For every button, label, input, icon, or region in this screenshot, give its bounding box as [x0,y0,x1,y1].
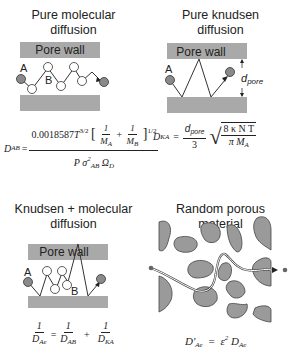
dpore-fraction: dpore 3 [183,123,207,151]
sqrt-symbol: √ [209,126,221,148]
frac-den-sub: AB [68,338,77,346]
particle-b [51,285,60,294]
particle-b [70,63,79,72]
pressure: P [74,157,80,168]
sqrt-num: 8 κ N T [221,123,256,136]
frac-den-sub: B [134,140,138,148]
eq-subscript: AB [11,144,20,152]
eq-symbol: D' [185,335,195,347]
frac-den: M [127,136,135,146]
particle-b [58,267,67,276]
particle-b [28,85,37,94]
molecular-diffusion-diagram: Pore wall A B [0,0,147,120]
sqrt-den: π M [229,136,245,147]
eq-subscript: Ae [195,341,202,349]
plus: + [116,129,122,140]
rhs-subscript: Ae [239,341,246,349]
sqrt-den-sub: A [245,141,249,149]
omega-sub: D [109,162,114,170]
frac-num: 1 [102,122,111,135]
combined-diffusion-diagram: Pore wall A B [0,178,147,308]
particle-b [78,77,87,86]
panel-pure-molecular: Pure molecular diffusion Pore wall A B D… [0,0,147,170]
pore-wall-label: Pore wall [39,245,88,259]
frac-num: 1 [128,122,137,135]
porous-diffusion-equation: D'Ae = ε2 DAe [185,334,246,349]
frac-den-sub: A [108,140,112,148]
panel-knudsen-molecular: Knudsen + molecular diffusion Pore wall … [0,178,147,356]
frac-den: D [60,333,67,344]
knudsen-diffusion-diagram: Pore wall A dpore [147,0,294,120]
particle-b [43,267,52,276]
panel-random-porous: Random porous material D'Ae = ε2 DAe [147,178,294,356]
frac-num-sub: pore [190,128,204,135]
dim-arrow-down-icon [240,93,244,97]
denominator: P σ2AB ΩD [72,151,116,174]
exponent: 3/2 [80,127,89,135]
arrowhead-icon [222,76,228,82]
frac-den-sub: KA [105,338,114,346]
sigma-sub: AB [91,162,100,170]
porous-material-diagram [147,178,294,338]
eq-subscript: KA [160,133,169,141]
particle-end [283,268,288,273]
combined-diffusion-equation: 1DAe = 1DAB + 1DKA [30,320,116,348]
knudsen-diffusion-equation: DKA = dpore 3 √ 8 κ N T π MA [153,122,256,151]
rhs-symbol: D [231,335,239,347]
particle-a [166,76,175,85]
label-b: B [71,285,78,297]
eq-equals: = [51,329,57,340]
label-a: A [24,266,32,278]
label-a: A [20,62,28,74]
knudsen-path [170,59,225,97]
term-1: 1DAe [30,320,49,348]
pore-wall-label: Pore wall [176,45,225,59]
term-3: 1DKA [96,320,116,348]
eq-equals: = [208,335,214,347]
particle-a [17,75,26,84]
frac-num: 1 [35,320,44,333]
porous-grains [159,217,271,322]
arrowhead-icon [272,267,278,273]
particle-a [24,278,33,287]
fraction-mb: 1MB [125,122,141,150]
frac-num: 1 [64,320,73,333]
sqrt-fraction: 8 κ N T π MA [221,122,256,151]
coefficient: 0.0018587 [31,129,74,140]
pore-wall-bottom [28,296,108,308]
particle-a [226,68,235,77]
label-a: A [165,63,173,75]
particle-b [57,82,66,91]
eq-equals: = [22,143,28,154]
term-2: 1DAB [58,320,78,348]
frac-den: 3 [190,139,199,151]
numerator: 0.0018587T3/2 [ 1MA + 1MB ]1/2 [29,122,158,151]
pore-wall-label: Pore wall [35,43,84,57]
plus: + [84,329,90,340]
main-fraction: 0.0018587T3/2 [ 1MA + 1MB ]1/2 P σ2AB ΩD [29,122,158,174]
frac-den: D [98,333,105,344]
fraction-ma: 1MA [98,122,114,150]
particle-start [149,266,154,271]
pore-wall-bottom [20,95,100,111]
eq-equals: = [173,131,179,142]
panel-pure-knudsen: Pure knudsen diffusion Pore wall A dpore… [147,0,294,170]
frac-den-sub: Ae [39,338,46,346]
porosity-exponent: 2 [225,334,229,342]
particle-a [100,78,109,87]
frac-num: 1 [101,320,110,333]
frac-den: M [100,136,108,146]
label-b: B [45,74,52,86]
omega: Ω [102,157,109,168]
pore-wall-bottom [167,97,247,113]
molecular-diffusion-equation: DAB = 0.0018587T3/2 [ 1MA + 1MB ]1/2 P σ… [4,122,158,174]
particle-b [44,63,53,72]
dim-label: dpore [241,72,264,86]
dim-arrow-up-icon [240,59,244,63]
particle-a [97,275,106,284]
